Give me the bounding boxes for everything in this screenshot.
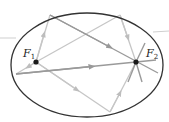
focus-f2-label: F2 bbox=[145, 47, 158, 61]
external-line-right bbox=[153, 31, 169, 32]
ellipse-reflection-diagram: F1 F2 bbox=[0, 0, 169, 122]
focus-f2-dot bbox=[133, 59, 138, 64]
ellipse-outline bbox=[11, 13, 163, 117]
focus-f1-label: F1 bbox=[22, 47, 35, 61]
